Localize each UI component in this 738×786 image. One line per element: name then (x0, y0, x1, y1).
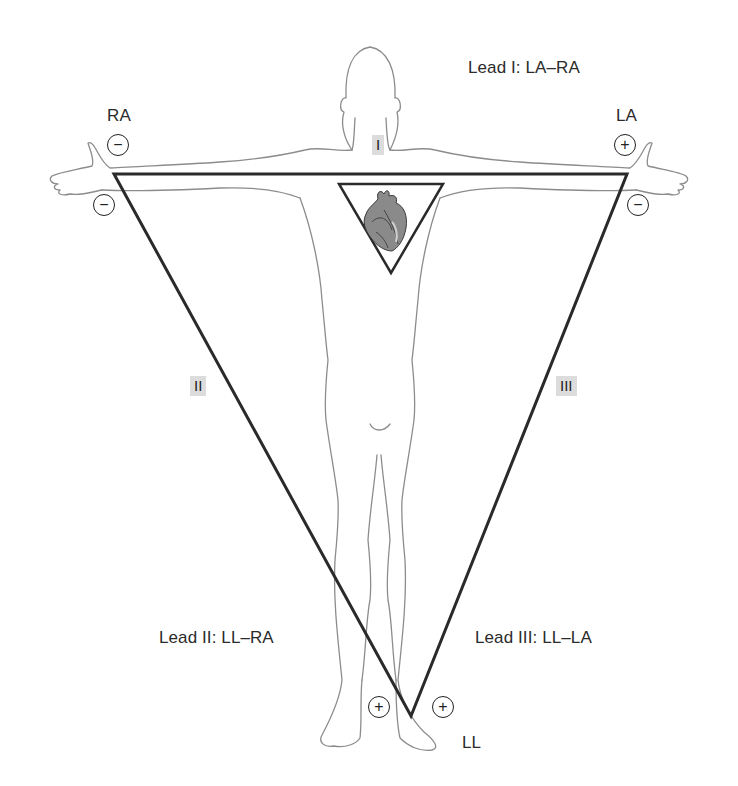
ll-positive-electrode-right-icon: + (432, 696, 454, 718)
heart-icon (364, 191, 406, 251)
lead-ii-marker: II (190, 376, 206, 396)
lead-iii-description: Lead III: LL–LA (475, 628, 592, 648)
ll-positive-electrode-left-icon: + (368, 696, 390, 718)
body-outline-icon (50, 47, 687, 750)
la-positive-electrode-icon: + (614, 134, 636, 156)
einthoven-diagram: Lead I: LA–RA RA LA Lead II: LL–RA Lead … (0, 0, 738, 786)
la-label: LA (616, 106, 637, 126)
lead-ii-description: Lead II: LL–RA (159, 628, 274, 648)
lead-iii-marker: III (556, 376, 577, 396)
ra-negative-electrode-lower-icon: − (93, 194, 115, 216)
lead-i-description: Lead I: LA–RA (468, 58, 580, 78)
ra-label: RA (107, 106, 131, 126)
la-negative-electrode-lower-icon: − (627, 194, 649, 216)
lead-i-marker: I (372, 135, 384, 155)
ll-label: LL (462, 733, 481, 753)
ra-negative-electrode-icon: − (107, 134, 129, 156)
